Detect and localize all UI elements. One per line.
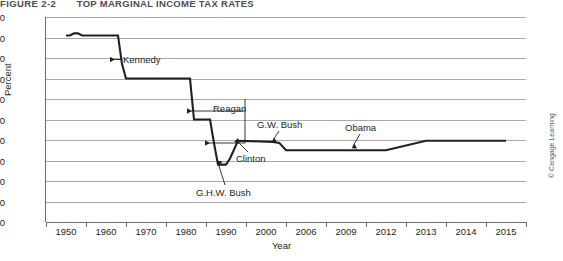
x-tick-10	[446, 222, 447, 227]
x-tick-label-1950: 1950	[55, 226, 76, 237]
copyright-credit: © Cengage Learning	[548, 113, 555, 178]
x-tick-label-1960: 1960	[95, 226, 116, 237]
x-tick-7	[326, 222, 327, 227]
figure-container: FIGURE 2-2 TOP MARGINAL INCOME TAX RATES…	[0, 0, 563, 261]
y-tick-label-10: 10	[0, 198, 5, 208]
y-tick-label-70: 70	[0, 75, 5, 85]
x-tick-3	[166, 222, 167, 227]
page-title: TOP MARGINAL INCOME TAX RATES	[77, 0, 254, 7]
figure-number: FIGURE 2-2	[0, 0, 56, 7]
x-tick-6	[286, 222, 287, 227]
annotation-label-reagan: Reagan	[213, 104, 246, 114]
annotation-label-clinton: Clinton	[236, 154, 266, 164]
y-tick-label-80: 80	[0, 54, 5, 64]
annotation-label-kennedy: Kennedy	[123, 55, 161, 65]
x-tick-label-1980: 1980	[175, 226, 196, 237]
x-tick-1	[86, 222, 87, 227]
x-tick-9	[406, 222, 407, 227]
x-tick-label-1970: 1970	[135, 226, 156, 237]
annotation-label-ghw-bush: G.H.W. Bush	[196, 188, 251, 198]
y-tick-label-90: 90	[0, 34, 5, 44]
y-tick-label-60: 60	[0, 95, 5, 105]
x-tick-label-2013: 2013	[415, 226, 436, 237]
x-tick-label-1990: 1990	[215, 226, 236, 237]
x-tick-4	[206, 222, 207, 227]
x-tick-label-2015: 2015	[495, 226, 516, 237]
x-axis-title: Year	[0, 240, 563, 251]
y-tick-label-30: 30	[0, 157, 5, 167]
y-tick-label-100: 100	[0, 13, 5, 23]
figure-title-bar: FIGURE 2-2 TOP MARGINAL INCOME TAX RATES	[0, 0, 563, 7]
x-tick-label-2006: 2006	[295, 226, 316, 237]
y-tick-label-40: 40	[0, 136, 5, 146]
y-tick-label-20: 20	[0, 177, 5, 187]
x-tick-0	[46, 222, 47, 227]
x-tick-12	[526, 222, 527, 227]
y-tick-label-0: 0	[0, 218, 5, 228]
x-tick-2	[126, 222, 127, 227]
annotation-label-obama: Obama	[345, 123, 376, 133]
x-tick-label-2014: 2014	[455, 226, 476, 237]
x-tick-label-2009: 2009	[335, 226, 356, 237]
annotation-label-gw-bush: G.W. Bush	[257, 120, 302, 130]
x-tick-5	[246, 222, 247, 227]
y-tick-label-50: 50	[0, 116, 5, 126]
x-tick-label-2012: 2012	[375, 226, 396, 237]
x-tick-label-2000: 2000	[255, 226, 276, 237]
x-tick-11	[486, 222, 487, 227]
x-tick-8	[366, 222, 367, 227]
